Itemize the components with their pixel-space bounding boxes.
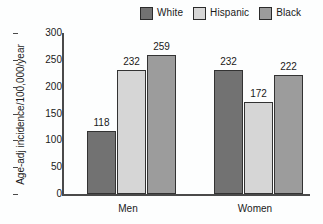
- plot-area: 050100150200250300 118232259232172222: [62, 33, 310, 196]
- y-tick-mark-150: [13, 114, 18, 115]
- bar-women-hispanic: [244, 102, 273, 194]
- legend-label-hispanic: Hispanic: [210, 8, 249, 18]
- bar-men-black: [147, 55, 176, 194]
- y-tick-label-50: 50: [28, 162, 62, 172]
- x-axis-spine: [62, 194, 310, 196]
- bar-value-label-women-white: 232: [220, 57, 237, 67]
- legend-label-black: Black: [276, 8, 301, 18]
- y-tick-label-0: 0: [28, 189, 62, 199]
- y-tick-label-250: 250: [28, 55, 62, 65]
- y-tick-label-100: 100: [28, 135, 62, 145]
- y-tick-mark-0: [13, 194, 18, 195]
- legend-label-white: White: [157, 8, 183, 18]
- bar-value-label-men-hispanic: 232: [123, 57, 140, 67]
- y-tick-label-300: 300: [28, 28, 62, 38]
- y-tick-mark-50: [13, 167, 18, 168]
- y-axis-ticks: 050100150200250300: [18, 33, 62, 196]
- legend-swatch-black-icon: [259, 7, 272, 20]
- bar-series-container: 118232259232172222: [64, 33, 310, 194]
- x-tick-label-women: Women: [238, 203, 272, 215]
- y-tick-mark-300: [13, 33, 18, 34]
- legend-item-white: White: [140, 7, 183, 20]
- bar-value-label-women-black: 222: [280, 62, 297, 72]
- legend-swatch-hispanic-icon: [193, 7, 206, 20]
- x-tick-label-men: Men: [118, 203, 137, 215]
- y-tick-label-150: 150: [28, 109, 62, 119]
- legend-swatch-white-icon: [140, 7, 153, 20]
- y-tick-label-200: 200: [28, 82, 62, 92]
- y-tick-mark-100: [13, 140, 18, 141]
- bar-men-white: [87, 131, 116, 194]
- y-tick-mark-200: [13, 87, 18, 88]
- bar-value-label-women-hispanic: 172: [250, 89, 267, 99]
- bar-women-white: [214, 70, 243, 195]
- legend-item-hispanic: Hispanic: [193, 7, 249, 20]
- chart-screenshot: { "chart_data": { "type": "bar", "title"…: [0, 0, 323, 224]
- bar-men-hispanic: [117, 70, 146, 195]
- bar-women-black: [274, 75, 303, 194]
- bar-value-label-men-white: 118: [94, 118, 110, 128]
- chart-legend: White Hispanic Black: [140, 4, 301, 22]
- legend-item-black: Black: [259, 7, 301, 20]
- bar-value-label-men-black: 259: [153, 42, 170, 52]
- y-tick-mark-250: [13, 60, 18, 61]
